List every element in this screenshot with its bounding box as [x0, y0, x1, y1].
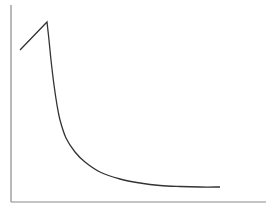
line-chart	[0, 0, 275, 211]
data-line	[20, 22, 220, 187]
